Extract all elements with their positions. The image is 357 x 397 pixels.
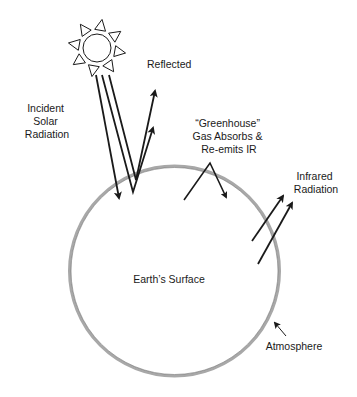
incident-label-line: Radiation — [25, 128, 70, 140]
incident-label-line: Incident — [27, 102, 64, 114]
sun-ray — [68, 39, 80, 50]
earth-surface — [71, 168, 278, 375]
infrared-label-line: Infrared — [296, 170, 332, 182]
sun-ray — [109, 31, 121, 42]
sun-ray — [114, 46, 126, 57]
greenhouse-label: “Greenhouse” Gas Absorbs & Re-emits IR — [193, 117, 266, 155]
sun-ray — [80, 24, 91, 36]
sun-ray — [103, 60, 114, 72]
sun-ray — [95, 19, 106, 31]
infrared-label: Infrared Radiation — [294, 170, 339, 195]
greenhouse-label-line: Gas Absorbs & — [193, 130, 263, 142]
sun-ray — [73, 54, 85, 65]
greenhouse-label-line: Re-emits IR — [201, 143, 257, 155]
reflected-label: Reflected — [147, 58, 192, 70]
atmosphere-pointer-arrow — [275, 323, 286, 336]
sun-ray — [88, 65, 99, 77]
earth-surface-label: Earth’s Surface — [133, 273, 205, 285]
infrared-label-line: Radiation — [294, 183, 339, 195]
incident-label: Incident Solar Radiation — [25, 102, 70, 140]
greenhouse-diagram: Incident Solar Radiation Reflected “Gree… — [0, 0, 357, 397]
incident-label-line: Solar — [33, 115, 58, 127]
sun-icon — [68, 19, 125, 76]
greenhouse-label-line: “Greenhouse” — [195, 117, 260, 129]
atmosphere-label: Atmosphere — [266, 340, 323, 352]
